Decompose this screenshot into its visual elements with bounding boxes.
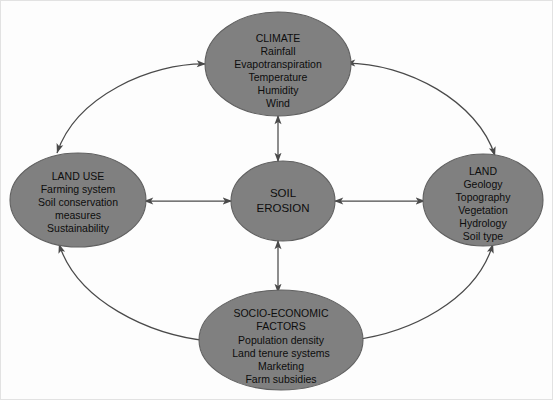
node-soil-erosion[interactable]: SOIL EROSION [231, 161, 335, 241]
connector-land-use-socio-economic[interactable] [59, 244, 209, 341]
node-soil-erosion-shape [231, 161, 335, 241]
node-land-use-line-0: LAND USE [52, 170, 105, 182]
connector-climate-land[interactable] [346, 63, 495, 156]
node-socio-economic-line-4: Marketing [258, 360, 304, 372]
node-soil-erosion-line-0: SOIL [270, 187, 297, 199]
node-land-line-1: Geology [463, 178, 503, 190]
node-climate-line-5: Wind [266, 97, 290, 109]
node-land-line-4: Hydrology [459, 217, 507, 229]
node-land-use-line-3: measures [55, 209, 101, 221]
node-land-use-line-2: Soil conservation [38, 196, 118, 208]
node-socio-economic-factors[interactable]: SOCIO-ECONOMIC FACTORS Population densit… [199, 290, 363, 390]
node-climate-line-0: CLIMATE [256, 32, 301, 44]
node-climate-line-2: Evapotranspiration [234, 58, 322, 70]
node-soil-erosion-line-1: EROSION [256, 202, 309, 214]
diagram-canvas: CLIMATE Rainfall Evapotranspiration Temp… [0, 0, 553, 400]
node-climate-line-3: Temperature [249, 71, 308, 83]
node-land-line-0: LAND [469, 165, 497, 177]
connector-climate-land-use[interactable] [57, 64, 206, 153]
node-land-use-line-1: Farming system [41, 183, 116, 195]
node-socio-economic-line-3: Land tenure systems [232, 347, 329, 359]
node-socio-economic-line-2: Population density [238, 334, 325, 346]
node-climate-line-1: Rainfall [260, 45, 295, 57]
node-land-use-line-4: Sustainability [47, 222, 110, 234]
node-land[interactable]: LAND Geology Topography Vegetation Hydro… [423, 154, 543, 246]
diagram-svg: CLIMATE Rainfall Evapotranspiration Temp… [1, 1, 553, 400]
connector-land-socio-economic[interactable] [353, 244, 493, 340]
node-land-line-5: Soil type [463, 230, 503, 242]
node-land-use[interactable]: LAND USE Farming system Soil conservatio… [10, 153, 146, 247]
node-climate[interactable]: CLIMATE Rainfall Evapotranspiration Temp… [205, 12, 351, 116]
node-socio-economic-line-1: FACTORS [256, 320, 305, 332]
node-land-line-3: Vegetation [458, 204, 508, 216]
node-socio-economic-line-5: Farm subsidies [245, 373, 316, 385]
node-land-line-2: Topography [456, 191, 512, 203]
node-climate-line-4: Humidity [258, 84, 300, 96]
node-socio-economic-line-0: SOCIO-ECONOMIC [233, 307, 329, 319]
